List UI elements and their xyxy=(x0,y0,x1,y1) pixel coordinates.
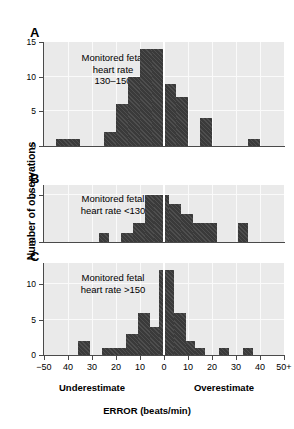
y-axis-tick-label: 15 xyxy=(10,38,36,47)
histogram-bar xyxy=(78,341,90,355)
histogram-bar xyxy=(145,195,155,243)
x-axis-title: ERROR (beats/min) xyxy=(0,405,294,416)
histogram-bar xyxy=(104,132,116,146)
histogram-bar xyxy=(186,341,196,355)
x-axis-tick xyxy=(116,356,117,360)
histogram-bar xyxy=(238,223,248,242)
x-axis-tick xyxy=(236,356,237,360)
y-axis-tick-label: 0 xyxy=(10,238,36,247)
histogram-bar xyxy=(133,223,145,242)
y-axis-tick xyxy=(39,42,43,43)
y-axis-tick xyxy=(39,77,43,78)
vertical-gridline xyxy=(236,42,237,146)
y-axis-tick xyxy=(39,320,43,321)
x-axis-tick xyxy=(164,356,165,360)
histogram-bar xyxy=(164,270,174,355)
x-axis-tick xyxy=(284,356,285,360)
y-axis-tick-label: 5 xyxy=(10,316,36,325)
zero-reference-line xyxy=(163,263,165,355)
histogram-bar xyxy=(174,313,186,355)
x-axis-tick xyxy=(68,356,69,360)
vertical-gridline xyxy=(260,263,261,355)
vertical-gridline xyxy=(260,42,261,146)
y-axis-title: Number of observations xyxy=(25,106,37,296)
zero-reference-line xyxy=(163,185,165,242)
histogram-bar xyxy=(219,348,229,355)
histogram-bar xyxy=(138,313,150,355)
y-axis-tick xyxy=(39,242,43,243)
overestimate-caption: Overestimate xyxy=(174,382,274,393)
x-axis-tick xyxy=(212,356,213,360)
y-axis-line-b xyxy=(43,185,44,243)
panel-letter-b: B xyxy=(30,172,39,185)
y-axis-line-a xyxy=(43,42,44,147)
histogram-bar xyxy=(154,195,168,243)
vertical-gridline xyxy=(188,42,189,146)
x-axis-tick xyxy=(44,356,45,360)
y-axis-line-c xyxy=(43,263,44,356)
histogram-bar xyxy=(243,348,253,355)
x-axis-tick xyxy=(140,356,141,360)
histogram-bar xyxy=(99,233,109,243)
histogram-bar xyxy=(121,233,133,243)
y-axis-tick-label: 10 xyxy=(10,73,36,82)
histogram-bar xyxy=(102,348,126,355)
y-axis-tick xyxy=(39,355,43,356)
y-axis-tick xyxy=(39,111,43,112)
histogram-bar xyxy=(176,97,188,146)
panel-letter-c: C xyxy=(30,250,39,263)
histogram-bar xyxy=(193,223,217,242)
histogram-bar xyxy=(140,49,152,146)
histogram-bar xyxy=(200,118,212,146)
vertical-gridline xyxy=(236,263,237,355)
y-axis-tick-label: 10 xyxy=(10,280,36,289)
histogram-bar xyxy=(195,348,205,355)
x-axis-tick-label: 50+ xyxy=(269,363,294,372)
x-axis-tick xyxy=(188,356,189,360)
x-axis-tick xyxy=(260,356,261,360)
x-axis-line-a xyxy=(43,146,285,147)
zero-reference-line xyxy=(163,42,165,146)
histogram-bar xyxy=(169,204,181,242)
y-axis-tick-label: 0 xyxy=(10,142,36,151)
x-axis-tick xyxy=(92,356,93,360)
y-axis-tick-label: 5 xyxy=(10,191,36,200)
underestimate-caption: Underestimate xyxy=(42,382,142,393)
x-axis-line-b xyxy=(43,242,285,243)
histogram-bar xyxy=(116,104,128,146)
histogram-bar xyxy=(126,334,138,355)
histogram-bar xyxy=(128,77,140,146)
vertical-gridline xyxy=(212,42,213,146)
vertical-gridline xyxy=(212,263,213,355)
histogram-bar xyxy=(152,49,164,146)
y-axis-tick xyxy=(39,146,43,147)
histogram-bar xyxy=(248,139,260,146)
histogram-bar xyxy=(56,139,80,146)
y-axis-tick-label: 5 xyxy=(10,107,36,116)
y-axis-tick-label: 0 xyxy=(10,351,36,360)
panel-annotation-c: Monitored fetal heart rate >150 xyxy=(58,272,168,295)
y-axis-tick xyxy=(39,195,43,196)
histogram-bar xyxy=(164,84,176,146)
figure-root: Number of observations AMonitored fetal … xyxy=(0,0,294,429)
histogram-bar xyxy=(150,327,160,355)
y-axis-tick xyxy=(39,284,43,285)
histogram-bar xyxy=(181,214,193,243)
